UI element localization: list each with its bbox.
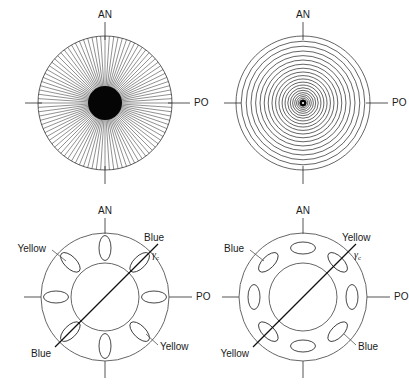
- four-panel-birefringence-figure: AN PO AN PO AN PO Blu: [0, 0, 409, 387]
- label-an-top-right: AN: [296, 9, 310, 20]
- label-po-top-right: PO: [392, 97, 407, 108]
- gamma-subscript: c: [156, 254, 159, 262]
- label-an-bottom-right: AN: [296, 205, 310, 216]
- label-po-top-left: PO: [194, 97, 209, 108]
- label-an-bottom-left: AN: [98, 205, 112, 216]
- label-yellow-upper-right: Yellow: [342, 232, 371, 243]
- label-blue-upper-right: Blue: [144, 232, 164, 243]
- gamma-subscript: c: [358, 254, 361, 262]
- radial-core: [88, 86, 122, 120]
- ring-core-highlight: [302, 102, 304, 104]
- figure-background: [0, 0, 409, 387]
- label-po-bottom-left: PO: [196, 291, 211, 302]
- label-blue-lower-left: Blue: [31, 348, 51, 359]
- label-yellow-lower-right: Yellow: [160, 341, 189, 352]
- label-blue-lower-right: Blue: [358, 341, 378, 352]
- label-yellow-upper-left: Yellow: [17, 243, 46, 254]
- label-blue-upper-left: Blue: [224, 243, 244, 254]
- label-an-top-left: AN: [98, 9, 112, 20]
- label-po-bottom-right: PO: [394, 291, 409, 302]
- label-yellow-lower-left: Yellow: [220, 348, 249, 359]
